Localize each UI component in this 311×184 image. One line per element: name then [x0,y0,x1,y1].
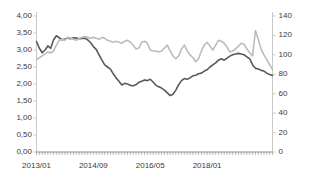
y-axis-left-tick-label: 2,50 [2,63,32,71]
y-axis-right-tick-label: 100 [279,51,292,59]
y-axis-right-tick-label: 140 [279,12,292,20]
y-axis-right-tick-label: 20 [279,129,288,137]
series-line-dark-series [37,36,273,96]
y-axis-left-tick-label: 3,00 [2,46,32,54]
chart-plot [0,0,311,184]
y-axis-left-tick-label: 0,50 [2,131,32,139]
y-axis-right-tick-label: 0 [279,148,283,156]
x-axis-tick-label: 2018/01 [177,162,237,170]
series-line-light-series [37,31,273,70]
chart-container: 0,000,501,001,502,002,503,003,504,000204… [0,0,311,184]
x-axis-tick-label: 2014/09 [63,162,123,170]
y-axis-right-tick-label: 120 [279,31,292,39]
y-axis-right-tick-label: 40 [279,109,288,117]
y-axis-right-tick-label: 80 [279,70,288,78]
y-axis-left-tick-label: 2,00 [2,80,32,88]
x-axis-tick-label: 2013/01 [7,162,67,170]
y-axis-left-tick-label: 1,50 [2,97,32,105]
y-axis-left-tick-label: 4,00 [2,12,32,20]
y-axis-left-tick-label: 0,00 [2,148,32,156]
y-axis-left-tick-label: 1,00 [2,114,32,122]
y-axis-left-tick-label: 3,50 [2,29,32,37]
x-axis-tick-label: 2016/05 [120,162,180,170]
y-axis-right-tick-label: 60 [279,90,288,98]
